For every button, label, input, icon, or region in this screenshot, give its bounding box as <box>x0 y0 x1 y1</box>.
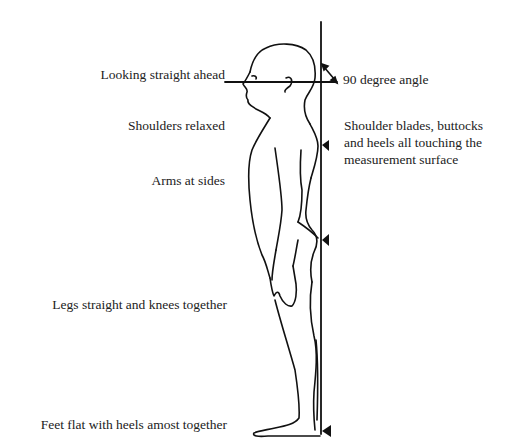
thigh-front-line <box>293 240 298 266</box>
back-outline <box>310 124 318 178</box>
eye-icon <box>252 76 256 79</box>
shin-outline <box>254 300 320 436</box>
hand-outline <box>270 266 296 306</box>
angle-arrow-icon <box>322 64 337 83</box>
ear-icon <box>285 77 292 92</box>
marker-buttocks-icon <box>322 234 329 246</box>
head-outline <box>250 44 315 124</box>
torso-inner-line <box>298 150 302 222</box>
posture-figure <box>0 0 525 448</box>
calf-outline <box>310 282 316 430</box>
marker-heels-icon <box>322 425 331 437</box>
marker-shoulder-blades-icon <box>322 140 329 151</box>
arm-front-outline <box>249 118 270 278</box>
buttock-outline <box>306 178 317 282</box>
calf-inner-line <box>316 340 318 420</box>
finger-line <box>272 250 276 280</box>
arm-inner-line <box>275 148 282 250</box>
